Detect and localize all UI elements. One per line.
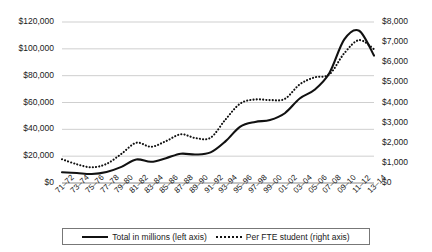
chart-plot-area: [0, 0, 432, 252]
solid-line-icon: [82, 236, 108, 238]
right-axis-tick-label: $5,000: [382, 77, 408, 86]
dotted-line-icon: [216, 236, 242, 238]
left-axis-tick-label: $80,000: [0, 71, 54, 80]
right-axis-tick-label: $4,000: [382, 98, 408, 107]
legend-item-per-fte: Per FTE student (right axis): [216, 232, 350, 242]
right-axis-tick-label: $2,000: [382, 138, 408, 147]
right-axis-tick-label: $3,000: [382, 118, 408, 127]
right-axis-tick-label: $1,000: [382, 158, 408, 167]
right-axis-tick-label: $6,000: [382, 57, 408, 66]
series-line-total: [62, 30, 374, 174]
right-axis-tick-label: $8,000: [382, 17, 408, 26]
left-axis-tick-label: $0: [0, 178, 54, 187]
chart-legend: Total in millions (left axis) Per FTE st…: [62, 228, 370, 245]
left-axis-tick-label: $20,000: [0, 151, 54, 160]
chart-container: $0$20,000$40,000$60,000$80,000$100,000$1…: [0, 0, 432, 252]
legend-label-total: Total in millions (left axis): [112, 232, 206, 242]
legend-label-per-fte: Per FTE student (right axis): [246, 232, 350, 242]
left-axis-tick-label: $100,000: [0, 44, 54, 53]
left-axis-tick-label: $120,000: [0, 17, 54, 26]
left-axis-tick-label: $60,000: [0, 98, 54, 107]
left-axis-tick-label: $40,000: [0, 124, 54, 133]
legend-item-total: Total in millions (left axis): [82, 232, 206, 242]
right-axis-tick-label: $7,000: [382, 37, 408, 46]
